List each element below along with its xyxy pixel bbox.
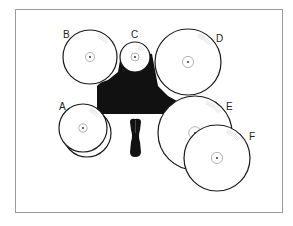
cymbal-label-b: B xyxy=(63,29,70,40)
cymbal-label-d: D xyxy=(216,33,223,44)
drum-kit-diagram: ABCDEF xyxy=(0,0,293,226)
cymbal-label-f: F xyxy=(249,131,255,142)
cymbal-label-e: E xyxy=(226,101,233,112)
cymbal-label-c: C xyxy=(131,29,138,40)
cymbal-b: B xyxy=(63,29,117,84)
cymbal-label-a: A xyxy=(59,101,66,112)
